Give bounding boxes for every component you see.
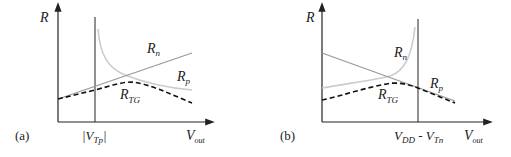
rn-label: Rn bbox=[393, 45, 408, 62]
y-axis-label: R bbox=[305, 10, 315, 25]
panel-a-tag: (a) bbox=[15, 128, 29, 143]
vdd-vtn-label: VDD - VTn bbox=[394, 128, 444, 145]
rp-label: Rp bbox=[176, 69, 191, 86]
diagram-canvas: R Rn Rp RTG (a) |VTp| Vout R Rn Rp RTG (… bbox=[0, 0, 511, 157]
vout-label-b: Vout bbox=[464, 128, 484, 145]
y-axis-label: R bbox=[39, 10, 49, 25]
rn-label: Rn bbox=[146, 41, 161, 58]
panel-b: R Rn Rp RTG (b) VDD - VTn Vout bbox=[280, 7, 488, 145]
rtg-label: RTG bbox=[119, 87, 141, 105]
panel-a: R Rn Rp RTG (a) |VTp| Vout bbox=[15, 7, 210, 145]
vtp-label: |VTp| bbox=[82, 128, 107, 145]
vout-label-a: Vout bbox=[186, 128, 206, 145]
rtg-label: RTG bbox=[377, 87, 399, 105]
rp-label: Rp bbox=[429, 76, 444, 93]
panel-b-tag: (b) bbox=[280, 128, 295, 143]
